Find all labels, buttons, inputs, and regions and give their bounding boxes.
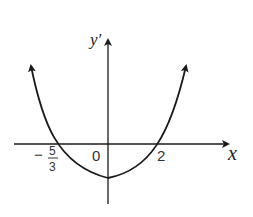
root-left-label: − 5 3 <box>34 144 58 174</box>
origin-label: 0 <box>92 147 100 164</box>
x-axis-label: x <box>227 142 237 164</box>
svg-text:5: 5 <box>49 144 56 158</box>
root-right-label: 2 <box>157 147 165 164</box>
svg-text:3: 3 <box>49 160 56 174</box>
y-axis-label: y′ <box>88 30 102 49</box>
svg-text:−: − <box>34 146 43 163</box>
derivative-graph: y′ x 0 2 − 5 3 <box>0 0 253 217</box>
